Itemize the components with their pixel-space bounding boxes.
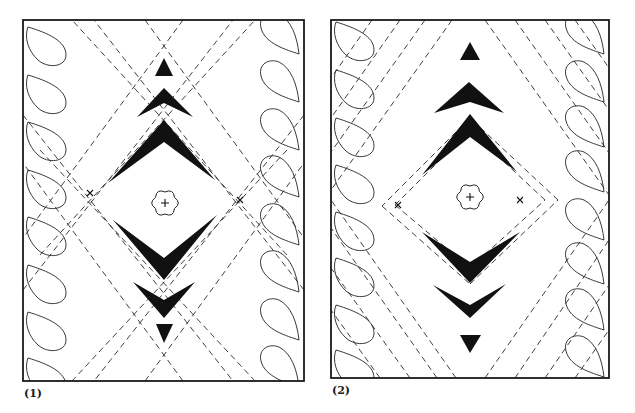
paisley-left-motif bbox=[26, 122, 66, 161]
paisley-right-motif bbox=[260, 13, 299, 54]
paisley-left-motif bbox=[26, 312, 66, 351]
paisley-right-motif bbox=[565, 336, 604, 377]
dashed-guide-line bbox=[485, 200, 609, 378]
dashed-guide-line bbox=[515, 240, 609, 378]
chevron-shape bbox=[433, 284, 506, 318]
paisley-left-motif bbox=[334, 165, 374, 204]
paisley-left-motif bbox=[334, 22, 374, 61]
chevron-shape bbox=[113, 215, 217, 280]
chevron-shape bbox=[137, 88, 193, 117]
paisley-right-motif bbox=[260, 156, 299, 197]
triangle-shape bbox=[460, 335, 481, 353]
x-mark-icon bbox=[87, 190, 93, 196]
paisley-right-motif bbox=[565, 61, 604, 102]
x-mark-icon bbox=[237, 197, 243, 203]
triangle-shape bbox=[460, 42, 480, 60]
panel-content bbox=[331, 13, 609, 389]
paisley-left-motif bbox=[334, 350, 374, 389]
dashed-guide-line bbox=[575, 330, 609, 378]
dashed-guide-line bbox=[331, 310, 380, 378]
paisley-right-motif bbox=[260, 299, 299, 340]
chevron-shape bbox=[133, 282, 195, 318]
dashed-guide-line bbox=[331, 228, 437, 378]
chevron-shape bbox=[422, 114, 517, 175]
paisley-right-motif bbox=[565, 13, 604, 54]
paisley-left-motif bbox=[26, 75, 66, 114]
dashed-guide-line bbox=[331, 20, 372, 78]
dashed-guide-line bbox=[485, 20, 609, 195]
paisley-left-motif bbox=[26, 265, 66, 304]
paisley-left-motif bbox=[26, 217, 66, 256]
dashed-guide-line bbox=[470, 200, 558, 284]
dashed-guide-line bbox=[331, 20, 425, 152]
panel-2 bbox=[331, 13, 609, 389]
panel-label-2: (2) bbox=[332, 385, 350, 396]
dashed-guide-line bbox=[382, 206, 470, 284]
triangle-shape bbox=[156, 324, 173, 343]
pattern-diagram bbox=[0, 0, 635, 413]
paisley-right-motif bbox=[260, 251, 299, 292]
paisley-left-motif bbox=[334, 70, 374, 109]
panel-1 bbox=[23, 13, 304, 397]
paisley-left-motif bbox=[334, 212, 374, 251]
dashed-guide-line bbox=[331, 200, 456, 378]
paisley-right-motif bbox=[565, 243, 604, 284]
dashed-guide-line bbox=[545, 285, 609, 378]
dashed-guide-line bbox=[72, 20, 287, 255]
x-mark-icon bbox=[517, 197, 523, 203]
paisley-right-motif bbox=[565, 106, 604, 147]
chevron-shape bbox=[434, 82, 504, 113]
paisley-right-motif bbox=[260, 61, 299, 102]
paisley-left-motif bbox=[334, 258, 374, 297]
chevron-shape bbox=[108, 120, 215, 183]
paisley-right-motif bbox=[260, 204, 299, 245]
paisley-right-motif bbox=[565, 199, 604, 240]
dashed-guide-line bbox=[40, 20, 255, 255]
dashed-guide-line bbox=[515, 20, 609, 153]
triangle-shape bbox=[155, 58, 173, 76]
paisley-right-motif bbox=[565, 151, 604, 192]
paisley-left-motif bbox=[334, 305, 374, 344]
paisley-left-motif bbox=[26, 27, 66, 66]
panel-label-1: (1) bbox=[24, 388, 42, 399]
paisley-right-motif bbox=[260, 109, 299, 150]
panel-content bbox=[23, 13, 304, 397]
figure: (1) (2) bbox=[0, 0, 635, 413]
